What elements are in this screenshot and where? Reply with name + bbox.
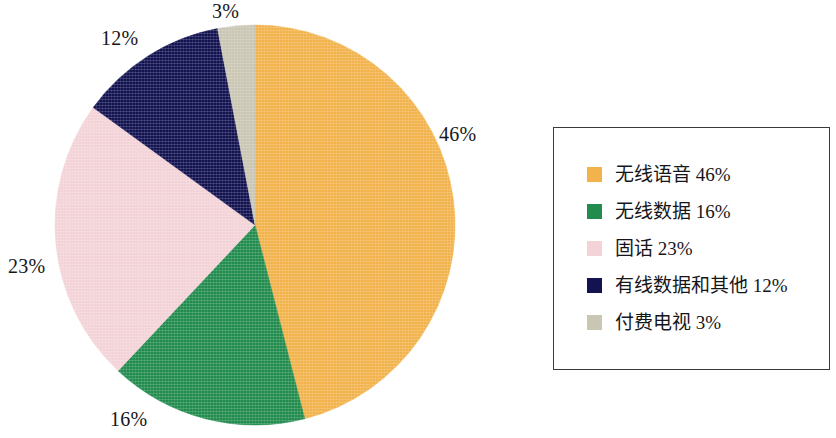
legend-item: 无线数据 16%	[587, 193, 823, 230]
slice-callout-pay-tv: 3%	[212, 0, 239, 23]
legend-item: 固话 23%	[587, 230, 823, 267]
legend-swatch	[587, 315, 602, 330]
pie-chart-svg	[0, 0, 520, 438]
slice-callout-wireline-data-other: 12%	[101, 27, 138, 50]
slice-callout-wireless-voice: 46%	[439, 123, 476, 146]
legend-item-label: 无线语音 46%	[615, 165, 731, 184]
legend-swatch	[587, 204, 602, 219]
slice-callout-fixed-line: 23%	[8, 255, 45, 278]
legend-item: 有线数据和其他 12%	[587, 267, 823, 304]
legend-list: 无线语音 46%无线数据 16%固话 23%有线数据和其他 12%付费电视 3%	[587, 156, 823, 341]
slice-callout-wireless-data: 16%	[110, 408, 147, 431]
legend-item-label: 有线数据和其他 12%	[615, 276, 788, 295]
legend-item-label: 付费电视 3%	[615, 313, 721, 332]
legend-item-label: 无线数据 16%	[615, 202, 731, 221]
legend-item: 付费电视 3%	[587, 304, 823, 341]
legend-item: 无线语音 46%	[587, 156, 823, 193]
legend-swatch	[587, 167, 602, 182]
halftone-texture-overlay	[55, 25, 455, 425]
legend-swatch	[587, 241, 602, 256]
pie-chart-figure: 46% 16% 23% 12% 3%	[0, 0, 520, 438]
legend-swatch	[587, 278, 602, 293]
legend-box: 无线语音 46%无线数据 16%固话 23%有线数据和其他 12%付费电视 3%	[553, 127, 830, 370]
legend-item-label: 固话 23%	[615, 239, 693, 258]
